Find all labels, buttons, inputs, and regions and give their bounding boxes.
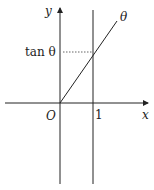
x-axis-label: x [142, 109, 149, 121]
origin-label: O [46, 110, 56, 122]
theta-label: θ [120, 11, 127, 23]
unit-line-diagram [0, 0, 154, 190]
tan-theta-label: tan θ [25, 46, 56, 58]
y-axis-label: y [45, 5, 52, 17]
angle-ray [60, 21, 117, 103]
one-label: 1 [95, 109, 103, 121]
